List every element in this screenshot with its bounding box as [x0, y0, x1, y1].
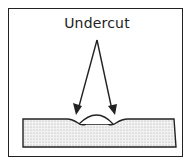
arrow-left [78, 40, 97, 110]
weld-bead [79, 115, 113, 124]
arrowhead-right-icon [108, 104, 117, 115]
weld-diagram [0, 0, 194, 165]
arrowhead-left-icon [73, 103, 82, 115]
arrow-right [97, 40, 112, 110]
